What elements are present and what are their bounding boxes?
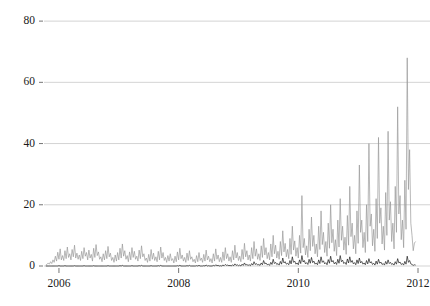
y-tick-label: 40 — [0, 137, 35, 149]
x-tick-label: 2006 — [29, 277, 89, 289]
y-axis-ticks — [39, 21, 43, 266]
series-upper-series — [46, 58, 416, 265]
y-tick-label: 0 — [0, 259, 35, 271]
chart-canvas — [0, 0, 430, 306]
series-lines — [46, 58, 416, 266]
chart-root: 0204060802006200820102012 — [0, 0, 430, 306]
x-axis-ticks — [59, 268, 418, 273]
x-tick-label: 2010 — [268, 277, 328, 289]
y-tick-label: 20 — [0, 198, 35, 210]
x-tick-label: 2012 — [388, 277, 430, 289]
y-tick-label: 80 — [0, 14, 35, 26]
y-tick-label: 60 — [0, 75, 35, 87]
x-tick-label: 2008 — [149, 277, 209, 289]
